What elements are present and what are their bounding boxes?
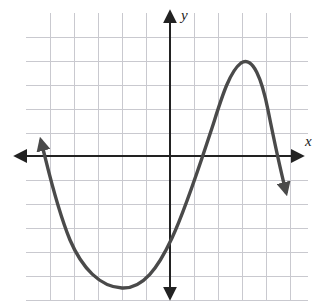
x-axis-label: x	[304, 133, 312, 149]
y-axis-label: y	[179, 7, 188, 23]
coordinate-plane: y x	[0, 0, 325, 307]
function-curve	[41, 61, 286, 288]
graph-figure: y x	[0, 0, 325, 307]
